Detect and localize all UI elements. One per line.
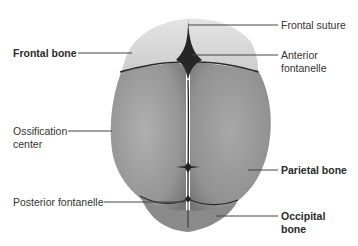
label-parietal-bone: Parietal bone: [281, 164, 347, 176]
parietal-bone-right: [190, 62, 271, 213]
label-anterior-fontanelle-line2: fontanelle: [281, 62, 327, 74]
label-ossification-center-line2: center: [13, 138, 42, 150]
label-frontal-suture: Frontal suture: [281, 19, 346, 31]
label-anterior-fontanelle-line1: Anterior: [281, 49, 318, 61]
label-posterior-fontanelle: Posterior fontanelle: [13, 196, 103, 208]
parietal-bone-left: [111, 62, 186, 214]
label-occipital-bone-line1: Occipital: [281, 210, 325, 222]
label-ossification-center-line1: Ossification: [13, 125, 67, 137]
label-frontal-bone: Frontal bone: [13, 47, 77, 59]
label-occipital-bone-line2: bone: [281, 223, 306, 235]
